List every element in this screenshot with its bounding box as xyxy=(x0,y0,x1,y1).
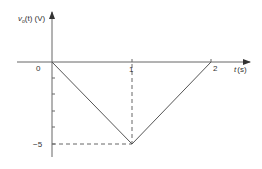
waveform-chart: 0 1 2 −5 vo(t) (V) t(s) xyxy=(0,0,262,169)
x-tick-label-1: 1 xyxy=(129,65,134,74)
y-tick-label-minus5: −5 xyxy=(33,140,43,149)
x-axis-label-rest: (s) xyxy=(237,65,247,74)
x-tick-label-2: 2 xyxy=(213,64,218,73)
x-tick-label-0: 0 xyxy=(36,64,41,73)
y-axis-label: vo(t) (V) xyxy=(18,14,46,24)
x-axis-label: t(s) xyxy=(234,65,247,74)
y-axis-label-rest: (t) (V) xyxy=(25,14,46,23)
